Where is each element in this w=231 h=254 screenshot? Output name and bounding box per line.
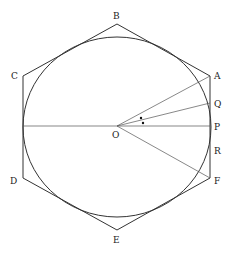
label-E: E [113, 235, 120, 245]
hexagon [23, 24, 210, 230]
line-O-to-F [117, 126, 210, 178]
label-R: R [214, 146, 221, 156]
label-B: B [113, 11, 120, 21]
angle-mark-dot [142, 122, 144, 124]
label-P: P [214, 122, 220, 132]
inscribed-circle [23, 37, 211, 217]
diagram-svg: A B C D E F O P Q R [0, 0, 231, 254]
label-Q: Q [214, 99, 221, 109]
line-O-to-A [117, 76, 210, 126]
label-O: O [112, 130, 119, 140]
line-O-to-Q [117, 103, 210, 126]
geometry-diagram: A B C D E F O P Q R [0, 0, 231, 254]
label-F: F [214, 176, 220, 186]
label-A: A [213, 71, 221, 81]
label-C: C [11, 71, 18, 81]
angle-mark-dot [140, 117, 142, 119]
label-D: D [10, 176, 17, 186]
